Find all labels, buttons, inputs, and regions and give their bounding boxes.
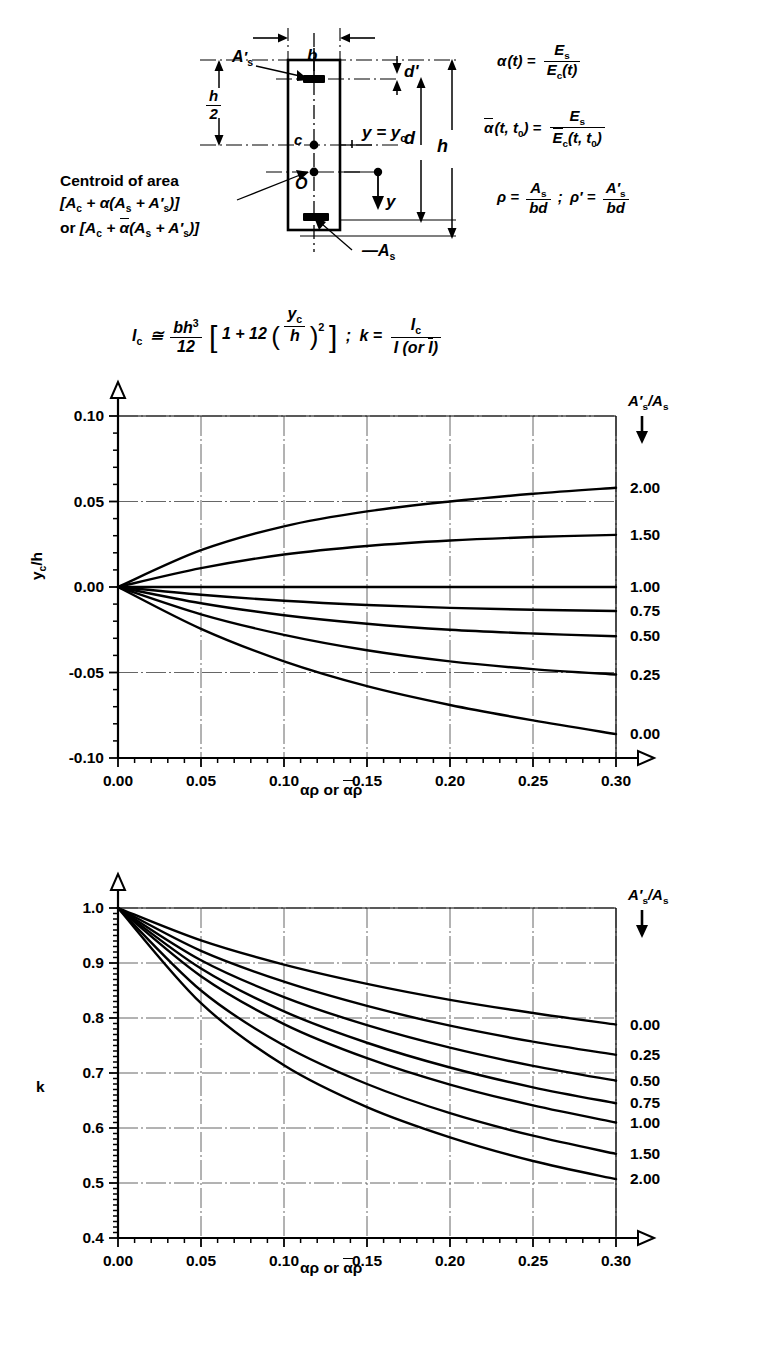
y-tick-label: 0.00 [0,578,104,596]
label-y-equals-yc: y = yc [362,123,407,144]
equation-alpha-bar: α (t, t0) = Es Ec(t, t0) [484,108,605,149]
curve-label: 0.75 [630,602,660,620]
chart1-canvas [0,380,700,800]
curve-label: 0.50 [630,627,660,645]
label-c: c [294,131,302,148]
rho-prime-numerator: A′s [603,180,629,200]
y-tick-label: 0.7 [0,1064,104,1082]
x-tick-label: 0.30 [601,772,631,790]
x-tick-label: 0.00 [103,1252,133,1270]
label-h: h [437,136,448,157]
rho-prime-denominator: bd [603,200,629,217]
chart2-canvas [0,880,700,1300]
cross-section-diagram: b d' h2 c O y = yc d h y A′s —As Centroi… [0,0,776,370]
h-over-2-denominator: 2 [206,106,221,123]
y-tick-label: 0.10 [0,407,104,425]
x-tick-label: 0.20 [435,772,465,790]
label-d-prime: d' [404,62,418,82]
y-tick-label: 0.05 [0,493,104,511]
Ic-denominator: 12 [170,338,201,356]
curve-label: 1.50 [630,526,660,544]
y-tick-label: 0.4 [0,1229,104,1247]
centroid-caption-line2: [Ac + α(As + A′s)] [60,194,179,214]
x-tick-label: 0.05 [186,772,216,790]
label-h-over-2: h2 [206,88,221,123]
x-tick-label: 0.00 [103,772,133,790]
chart-yc-over-h: A′s/As -0.10-0.050.000.050.10 0.000.050.… [0,380,776,860]
k-denominator: I (or I) [391,338,441,357]
curve-label: 0.50 [630,1072,660,1090]
y-tick-label: 0.9 [0,954,104,972]
y-tick-label: 1.0 [0,899,104,917]
paren-open: ( [271,321,280,351]
y-equals-yc-text: y = y [362,123,400,142]
Ic-numerator: bh3 [170,318,201,338]
x-tick-label: 0.20 [435,1252,465,1270]
curve-label: 1.00 [630,1114,660,1132]
x-tick-label: 0.10 [269,772,299,790]
curve-label: 0.25 [630,1046,660,1064]
curve-label: 2.00 [630,479,660,497]
rho-denominator: bd [526,200,550,217]
x-tick-label: 0.25 [518,772,548,790]
label-b: b [307,46,317,66]
curve-label: 1.50 [630,1145,660,1163]
label-y: y [386,192,395,212]
alpha-denominator: Ec(t) [544,62,581,81]
equation-Ic: Ic ≅ bh3 12 [ 1 + 12 ( yc h )2 ] ; k = I… [132,305,441,357]
curve-label: 0.25 [630,666,660,684]
label-As-prime: A′s [232,48,253,68]
k-numerator: Ic [391,316,441,338]
curve-label: 2.00 [630,1170,660,1188]
y-tick-label: -0.05 [0,664,104,682]
chart2-x-axis-title: αρ or αρ [300,1258,362,1277]
rho-numerator: As [526,180,550,200]
x-tick-label: 0.30 [601,1252,631,1270]
alpha-bar-denominator: Ec(t, t0) [550,128,605,149]
yc-over-h-numerator: yc [284,305,305,327]
y-tick-label: 0.5 [0,1174,104,1192]
chart1-x-axis-title: αρ or αρ [300,780,362,799]
bracket-close: ] [329,320,337,353]
figure-root: b d' h2 c O y = yc d h y A′s —As Centroi… [0,0,776,1371]
y-tick-label: 0.8 [0,1009,104,1027]
y-tick-label: 0.6 [0,1119,104,1137]
x-tick-label: 0.25 [518,1252,548,1270]
bracket-open: [ [209,320,217,353]
x-tick-label: 0.05 [186,1252,216,1270]
h-over-2-numerator: h [206,88,221,106]
x-tick-label: 0.10 [269,1252,299,1270]
chart2-y-axis-title: k [36,1078,45,1096]
centroid-caption-line3: or [Ac + α(As + A′s)] [60,218,199,239]
power-2: 2 [318,321,324,333]
centroid-caption-line1: Centroid of area [60,172,179,190]
curve-label: 1.00 [630,578,660,596]
curve-label: 0.00 [630,725,660,743]
label-d: d [404,128,415,149]
chart1-y-axis-title: yc/h [28,552,48,580]
yc-over-h-denominator: h [284,327,305,345]
curve-label: 0.75 [630,1094,660,1112]
chart-k: A′s/As 0.40.50.60.70.80.91.0 0.000.050.1… [0,880,776,1360]
alpha-bar-numerator: Es [550,108,605,128]
label-O: O [295,175,307,193]
equation-rho: ρ = As bd ; ρ′ = A′s bd [497,180,629,217]
equation-alpha: α (t) = Es Ec(t) [497,42,580,81]
y-tick-label: -0.10 [0,749,104,767]
label-As: —As [362,242,395,262]
curve-label: 0.00 [630,1016,660,1034]
alpha-numerator: Es [544,42,581,62]
